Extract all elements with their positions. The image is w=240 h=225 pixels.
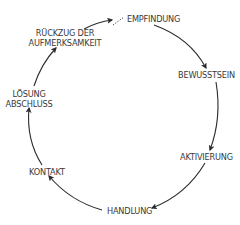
arrow-bewusstsein-aktivierung: [210, 82, 218, 150]
stage-handlung: HANDLUNG: [107, 206, 152, 216]
arrow-kontakt-loesung: [29, 108, 42, 165]
stage-kontakt: KONTAKT: [29, 167, 65, 177]
stage-rueckzug-aufmerksamkeit: RÜCKZUG DER AUFMERKSAMKEIT: [29, 28, 102, 48]
dotted-connector: [113, 17, 124, 25]
arrow-loesung-rueckzug: [34, 48, 56, 86]
stage-aktivierung: AKTIVIERUNG: [180, 152, 233, 162]
stage-bewusstsein: BEWUSSTSEIN: [178, 70, 235, 80]
stage-loesung-abschluss: LÖSUNG ABSCHLUSS: [6, 89, 53, 109]
cycle-diagram: EMPFINDUNG BEWUSSTSEIN AKTIVIERUNG HANDL…: [0, 0, 240, 225]
arrow-aktivierung-handlung: [152, 163, 205, 208]
arrow-empfindung-bewusstsein: [154, 25, 206, 68]
stage-empfindung: EMPFINDUNG: [127, 14, 180, 24]
arrow-handlung-kontakt: [49, 176, 102, 210]
